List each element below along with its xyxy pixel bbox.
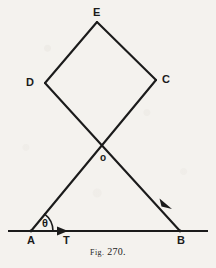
segment-E-to-D <box>45 22 97 83</box>
label-point-C: C <box>162 74 170 85</box>
vertex-B-dot <box>179 230 182 233</box>
figure-caption-number: 270. <box>107 246 126 257</box>
figure-caption: Fig. 270. <box>0 246 216 257</box>
segment-E-to-C <box>97 22 156 80</box>
label-point-T: T <box>63 235 70 246</box>
diagram-strokes <box>8 22 208 236</box>
segment-A-to-C <box>31 80 156 231</box>
label-point-B: B <box>177 235 185 246</box>
label-point-A: A <box>27 235 35 246</box>
label-angle-theta: θ <box>42 218 48 229</box>
geometry-diagram <box>0 0 216 268</box>
label-point-O: o <box>100 153 106 163</box>
direction-arrow-DB-icon <box>160 199 173 210</box>
label-point-E: E <box>93 7 100 18</box>
figure-caption-dot: . <box>102 248 104 257</box>
segment-D-to-B <box>45 83 180 231</box>
figure-caption-prefix: Fig <box>90 248 102 257</box>
label-point-D: D <box>26 77 34 88</box>
vertex-A-dot <box>30 230 33 233</box>
figure-container: E D C o θ A T B Fig. 270. <box>0 0 216 268</box>
